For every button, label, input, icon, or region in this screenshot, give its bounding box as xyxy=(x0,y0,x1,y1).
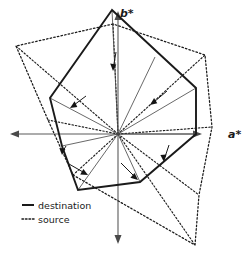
spoke-dotted-7 xyxy=(118,55,205,134)
gamut-mapping-figure: b* a* destination source xyxy=(0,0,249,255)
spokes-solid xyxy=(50,10,196,190)
spoke-dotted-1 xyxy=(16,46,118,134)
legend: destination source xyxy=(22,200,91,225)
b-star-axis-arrow-down xyxy=(115,235,122,244)
destination-gamut-polygon xyxy=(50,10,196,190)
a-star-axis-arrow-left xyxy=(10,131,19,138)
b-star-axis-label: b* xyxy=(120,7,134,20)
spoke-solid-6 xyxy=(118,88,196,134)
mapping-arrows-group xyxy=(59,52,169,180)
map-arrow-upper-right xyxy=(150,91,167,105)
spoke-dotted-4 xyxy=(118,134,195,245)
spoke-solid-2 xyxy=(62,134,118,146)
legend-destination-label: destination xyxy=(38,200,91,211)
spoke-solid-1 xyxy=(50,98,118,134)
legend-source-label: source xyxy=(38,214,70,225)
spoke-solid-0 xyxy=(112,10,118,134)
figure-canvas: b* a* destination source xyxy=(0,0,249,255)
map-arrow-top xyxy=(110,52,116,71)
spoke-dotted-3 xyxy=(73,134,118,175)
a-star-axis-label: a* xyxy=(228,128,241,141)
spoke-solid-7 xyxy=(118,57,155,134)
map-arrow-upper-left xyxy=(70,96,86,108)
spoke-solid-4 xyxy=(118,134,140,182)
spoke-dotted-5 xyxy=(118,134,199,195)
